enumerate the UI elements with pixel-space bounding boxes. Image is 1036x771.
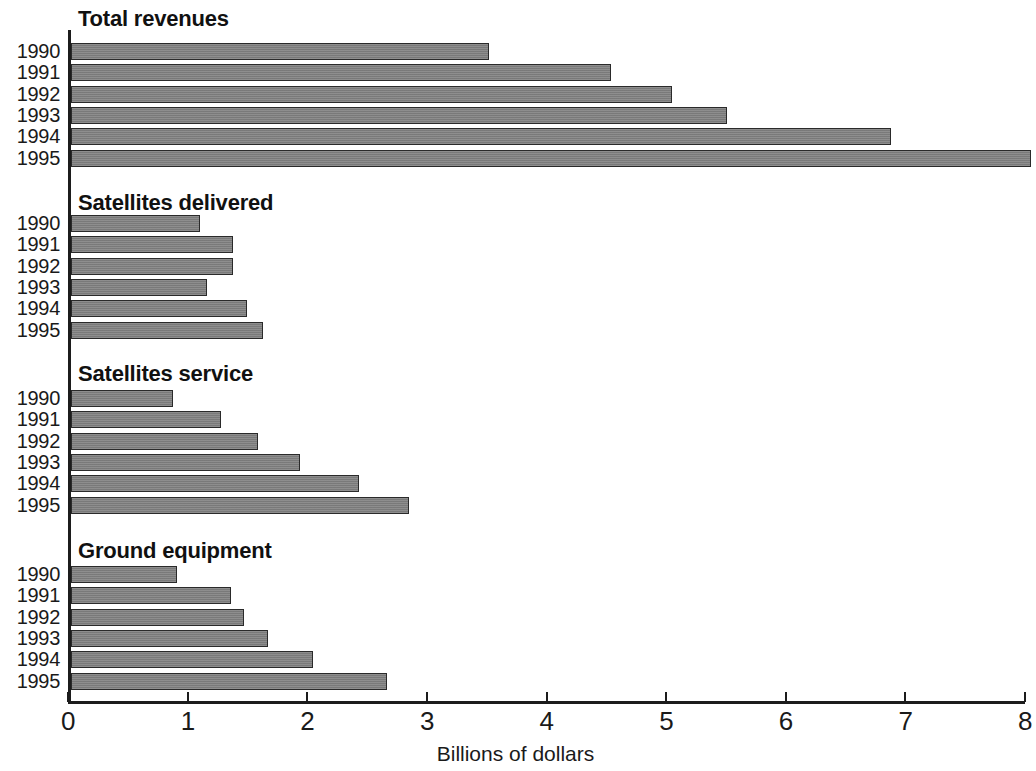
category-label: 1993 [0,451,60,474]
category-label: 1992 [0,255,60,278]
category-label: 1991 [0,408,60,431]
category-label: 1990 [0,40,60,63]
x-tick-label: 8 [1005,706,1036,737]
category-label: 1993 [0,276,60,299]
panel-title: Total revenues [78,6,229,32]
bar [71,150,1031,167]
x-tick-mark [426,692,428,702]
category-label: 1994 [0,472,60,495]
bar [71,587,231,604]
bar [71,128,891,145]
x-tick-label: 3 [407,706,447,737]
category-label: 1995 [0,147,60,170]
category-label: 1994 [0,125,60,148]
category-label: 1991 [0,61,60,84]
x-tick-label: 6 [766,706,806,737]
bar [71,279,207,296]
x-tick-mark [67,692,69,702]
bar [71,258,233,275]
category-label: 1990 [0,387,60,410]
category-label: 1991 [0,584,60,607]
category-label: 1995 [0,494,60,517]
x-tick-mark [546,692,548,702]
category-label: 1991 [0,233,60,256]
bar [71,215,200,232]
x-tick-label: 1 [168,706,208,737]
category-label: 1992 [0,83,60,106]
category-label: 1994 [0,648,60,671]
bar [71,236,233,253]
bar [71,390,173,407]
category-label: 1994 [0,297,60,320]
bar [71,651,313,668]
category-label: 1995 [0,670,60,693]
bar [71,433,258,450]
bar [71,86,672,103]
x-axis-title: Billions of dollars [0,742,1031,766]
panel-title: Satellites service [78,361,253,387]
category-label: 1993 [0,627,60,650]
x-tick-label: 7 [885,706,925,737]
bar [71,300,247,317]
x-tick-mark [1024,692,1026,702]
panel-title: Ground equipment [78,538,272,564]
bar [71,497,409,514]
bar [71,630,268,647]
bar [71,107,727,124]
x-tick-mark [785,692,787,702]
x-tick-mark [904,692,906,702]
category-label: 1992 [0,606,60,629]
bar [71,411,221,428]
category-label: 1995 [0,319,60,342]
bar [71,566,177,583]
bar [71,609,244,626]
x-tick-mark [665,692,667,702]
bar [71,322,263,339]
bar [71,43,489,60]
category-label: 1992 [0,430,60,453]
category-label: 1990 [0,212,60,235]
x-tick-label: 4 [527,706,567,737]
panel-title: Satellites delivered [78,190,273,216]
bar [71,64,611,81]
category-label: 1993 [0,104,60,127]
x-tick-label: 0 [48,706,88,737]
x-tick-mark [187,692,189,702]
x-tick-label: 2 [287,706,327,737]
bar [71,475,359,492]
category-label: 1990 [0,563,60,586]
bar [71,673,387,690]
bar [71,454,300,471]
x-tick-mark [306,692,308,702]
x-tick-label: 5 [646,706,686,737]
